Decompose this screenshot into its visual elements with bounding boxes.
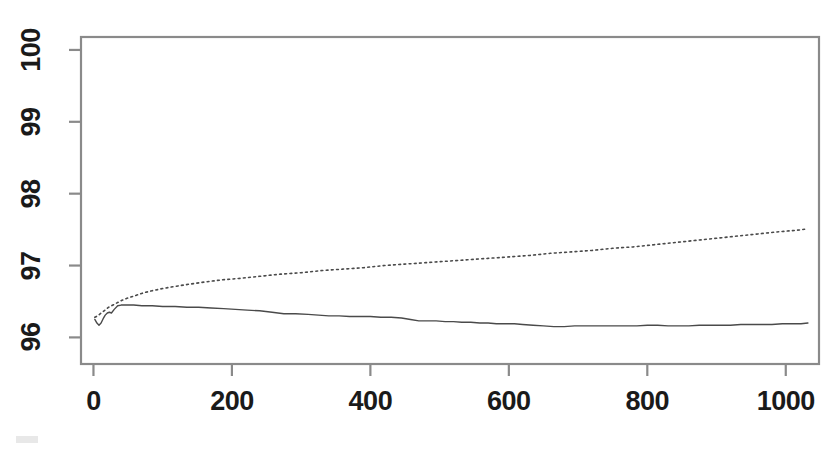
series-line-solid-lower-curve (95, 305, 808, 327)
x-tick-label: 600 (487, 388, 531, 415)
x-tick-label: 200 (210, 388, 254, 415)
plot-area (0, 0, 840, 451)
series-line-dotted-upper-curve (95, 229, 808, 317)
y-tick-label: 100 (17, 19, 45, 81)
y-tick-label: 97 (17, 235, 45, 297)
x-tick-label: 800 (626, 388, 670, 415)
x-tick-label: 0 (86, 388, 101, 415)
y-tick-label: 99 (17, 91, 45, 153)
x-tick-label: 1000 (757, 388, 815, 415)
chart-figure: 96979899100 02004006008001000 (0, 0, 840, 451)
y-tick-label: 98 (17, 163, 45, 225)
y-tick-label: 96 (17, 306, 45, 368)
scan-edge-artifact (16, 436, 38, 443)
x-tick-label: 400 (349, 388, 393, 415)
plot-frame (81, 37, 819, 364)
